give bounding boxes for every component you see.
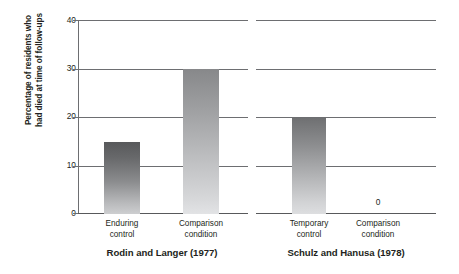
panel-title-rodin-langer: Rodin and Langer (1977) [107,247,218,258]
category-label-enduring-control: Enduring control [106,219,139,240]
value-label-zero: 0 [376,198,381,207]
bar-enduring-control [104,142,140,214]
category-label-comparison-condition-left: Comparison condition [179,219,223,240]
gridline-30 [78,69,248,70]
gridline-40 [78,20,248,21]
panel-schulz-hanusa: 0 Temporary control Comparison condition… [256,20,436,214]
gridline-40-right [256,20,436,21]
y-axis-label-line-2: had died at time of follow-ups [34,0,45,170]
bar-comparison-condition-left [183,69,219,214]
gridline-0-right [256,213,436,214]
chart-figure: Percentage of residents who had died at … [0,0,459,274]
plot-area-right: 0 [256,20,436,214]
gridline-30-right [256,69,436,70]
bar-temporary-control [292,118,326,215]
y-axis-label-line-1: Percentage of residents who [23,0,34,170]
gridline-20-right [256,117,436,118]
category-label-temporary-control: Temporary control [290,219,329,240]
panel-rodin-langer: Enduring control Comparison condition Ro… [78,20,248,214]
plot-area-left [78,20,248,214]
y-axis-tick-labels: 40 30 20 10 0 [52,0,76,274]
category-label-comparison-condition-right: Comparison condition [356,219,400,240]
gridline-20 [78,117,248,118]
gridline-10-right [256,166,436,167]
panel-title-schulz-hanusa: Schulz and Hanusa (1978) [287,247,404,258]
